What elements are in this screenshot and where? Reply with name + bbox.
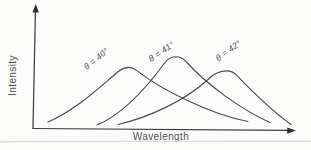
intensity-vs-wavelength-figure: Intensity Wavelength θ = 40° θ = 41° θ =… <box>0 0 311 150</box>
scan-artifact-line <box>0 141 311 142</box>
x-axis: Wavelength <box>33 127 296 141</box>
y-axis: Intensity <box>7 4 39 129</box>
x-axis-arrowhead-icon <box>287 127 296 133</box>
curve-theta-41 <box>97 57 270 125</box>
annotation-theta-42: θ = 42° <box>214 38 244 63</box>
curve-theta-40 <box>48 68 248 122</box>
x-axis-label: Wavelength <box>133 131 189 142</box>
y-axis-line <box>33 12 35 129</box>
annotation-theta-41: θ = 41° <box>147 39 177 64</box>
y-axis-arrowhead-icon <box>32 4 38 13</box>
annotation-theta-40: θ = 40° <box>82 45 111 71</box>
y-axis-label: Intensity <box>7 55 18 96</box>
diffraction-spectrum-chart: Intensity Wavelength θ = 40° θ = 41° θ =… <box>0 0 311 150</box>
